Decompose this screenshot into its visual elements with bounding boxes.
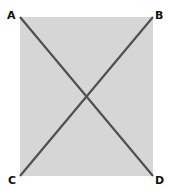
vertex-label-c: C <box>8 174 16 187</box>
vertex-label-d: D <box>155 174 164 187</box>
rectangle-diagram: A B C D <box>0 0 169 188</box>
vertex-label-a: A <box>7 9 16 22</box>
vertex-label-b: B <box>155 9 163 22</box>
